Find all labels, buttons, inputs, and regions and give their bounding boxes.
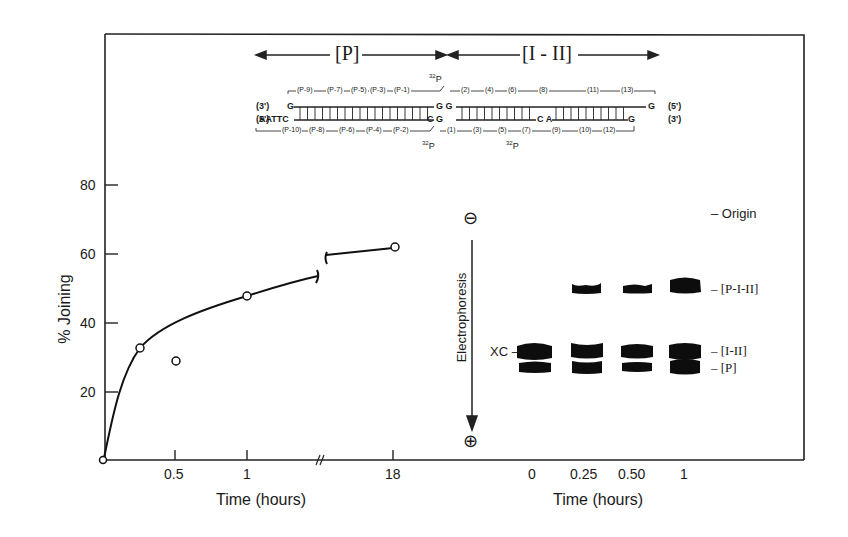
band-label-origin: – Origin [711,206,757,221]
band-p-lane-050 [622,362,652,372]
top-strand-segment: (2) [460,86,471,93]
band-i-ii-lane-050 [621,344,653,359]
electrophoresis-arrow [467,240,477,430]
five-prime-right-label: (5') [668,101,681,111]
bottom-strand-segment: (1) [446,126,457,133]
figure: [P] [I - II] 32P (P-9)(P-7)(P-5)(P-3)(P-… [0,0,848,537]
y-axis-ticks [105,185,118,392]
region-arrows [256,51,658,59]
bottom-strand-segment: (P-4) [365,126,383,133]
bottom-strand-segment: (P-10) [281,126,302,133]
y-axis-title: % Joining [56,254,74,364]
data-point [100,457,107,464]
lane-label-1: 1 [680,466,688,482]
band-p-i-ii-lane-025 [572,283,601,294]
region-label-p: [P] [335,42,359,65]
p32-label-bottom-left: 32P [422,140,435,151]
p32-label-top: 32P [429,73,442,84]
band-p-i-ii-lane-050 [623,284,652,294]
bottom-left-bases-text: AATTC [259,114,289,124]
positive-electrode-icon: ⊕ [463,430,478,452]
fit-curve [104,248,393,458]
top-strand-segment: (P-1) [393,86,411,93]
top-strand-segment: (13) [620,86,634,93]
bottom-strand-segment: (P-8) [308,126,326,133]
bottom-right-base: G [628,114,635,124]
x-tick-1: 1 [243,466,251,482]
xc-marker-text: XC [490,344,508,359]
bottom-strand-segment: (3) [472,126,483,133]
band-p-lane-0 [519,362,551,374]
top-strand-segment: (6) [507,86,518,93]
lane-label-0-50: 0.50 [618,466,645,482]
bottom-left-bases: AATTC [259,114,289,124]
bottom-strand-segment: (9) [551,126,562,133]
data-point [136,344,144,352]
junction-top-bases: G G [436,101,453,111]
band-label-origin-text: Origin [722,206,757,221]
band-p-lane-025 [572,361,602,374]
y-tick-20: 20 [80,384,96,400]
band-label-i-ii-text: [I-II] [721,343,747,358]
band-label-p: – [P] [711,360,737,376]
x-tick-18: 18 [385,466,401,482]
gel-x-axis-title: Time (hours) [553,491,643,509]
gel-bands [517,278,701,375]
mid-bottom-bases: C A [537,114,552,124]
band-i-ii-lane-025 [571,343,603,359]
data-point [391,243,399,251]
electrophoresis-label: Electrophoresis [454,258,469,378]
top-right-base: G [648,101,655,111]
bottom-strand-segment: (P-2) [392,126,410,133]
band-i-ii-lane-0 [517,343,552,360]
bottom-strand-segment: (5) [497,126,508,133]
y-tick-40: 40 [80,315,96,331]
data-point [243,292,251,300]
bottom-strand-segment: (7) [521,126,532,133]
figure-graphics [0,0,848,537]
top-strand-segment: (4) [484,86,495,93]
top-strand-segment: (P-5) [350,86,368,93]
top-strand-segment: (11) [586,86,600,93]
junction-bottom-bases: C G [427,114,443,124]
data-point [172,357,180,365]
bottom-strand-segment: (10) [578,126,592,133]
lane-label-0-25: 0.25 [570,466,597,482]
y-tick-60: 60 [80,246,96,262]
band-label-i-ii: – [I-II] [711,343,747,359]
p32-label-bottom-mid: 32P [506,140,519,151]
band-p-lane-1 [670,359,700,375]
band-i-ii-lane-1 [669,343,701,360]
top-strand-segment: (P-7) [326,86,344,93]
band-label-p-i-ii-text: [P-I-II] [721,281,759,296]
band-label-p-text: [P] [721,360,737,375]
y-tick-80: 80 [80,177,96,193]
top-strand-segment: (P-9) [296,86,314,93]
top-strand-segment: (8) [538,86,549,93]
x-axis-title: Time (hours) [216,491,306,509]
negative-electrode-icon: ⊖ [463,207,478,229]
bottom-strand-segment: (12) [602,126,616,133]
data-points [100,243,400,464]
x-axis-ticks [175,450,393,460]
bottom-strand-segment: (P-6) [338,126,356,133]
x-tick-0-5: 0.5 [164,466,183,482]
three-prime-left-label: (3') [256,101,269,111]
band-label-p-i-ii: – [P-I-II] [711,281,758,297]
base-pair-rungs [300,107,624,120]
top-strand-segment: (P-3) [369,86,387,93]
xc-marker-label: XC – [490,344,519,359]
top-left-base: G [287,101,294,111]
three-prime-right-label: (3') [668,114,681,124]
region-label-i-ii: [I - II] [522,42,572,65]
figure-frame [105,34,804,460]
band-p-i-ii-lane-1 [670,278,701,294]
lane-label-0: 0 [528,466,536,482]
